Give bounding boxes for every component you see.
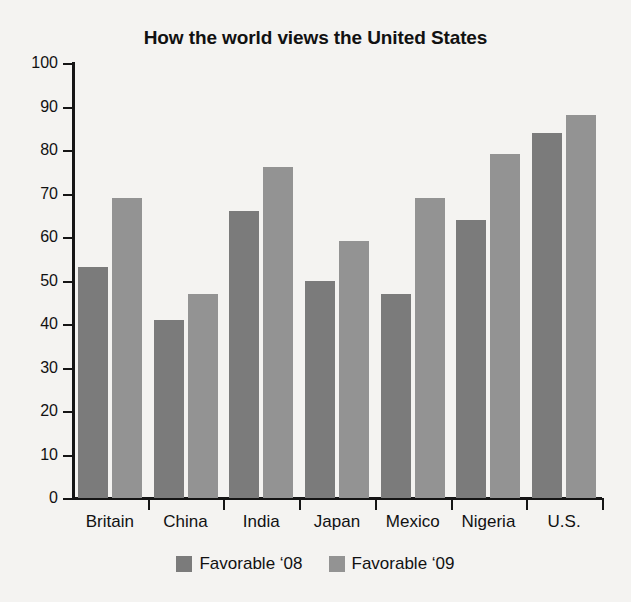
bar-nigeria-09 bbox=[490, 154, 520, 498]
y-tick-label: 0 bbox=[49, 488, 58, 507]
y-tick-label: 30 bbox=[40, 358, 58, 377]
bar-china-08 bbox=[154, 320, 184, 498]
y-tick-label: 20 bbox=[40, 401, 58, 420]
y-tick-mark bbox=[63, 498, 72, 500]
x-tick-mark bbox=[451, 498, 453, 510]
y-tick-mark bbox=[63, 368, 72, 370]
bar-mexico-08 bbox=[381, 294, 411, 498]
y-tick-label: 60 bbox=[40, 227, 58, 246]
bar-japan-08 bbox=[305, 281, 335, 499]
bar-japan-09 bbox=[339, 241, 369, 498]
bar-mexico-09 bbox=[415, 198, 445, 498]
bar-us-09 bbox=[566, 115, 596, 498]
legend-swatch-icon bbox=[329, 556, 345, 572]
x-tick-mark bbox=[526, 498, 528, 510]
x-axis-label-china: China bbox=[148, 512, 224, 532]
y-tick-mark bbox=[63, 281, 72, 283]
x-axis-label-mexico: Mexico bbox=[375, 512, 451, 532]
x-axis-label-india: India bbox=[223, 512, 299, 532]
y-tick-mark bbox=[63, 107, 72, 109]
bar-britain-08 bbox=[78, 267, 108, 498]
x-axis-label-japan: Japan bbox=[299, 512, 375, 532]
y-tick-mark bbox=[63, 63, 72, 65]
legend-label: Favorable ‘09 bbox=[352, 554, 455, 574]
y-tick-label: 50 bbox=[40, 271, 58, 290]
y-tick-mark bbox=[63, 411, 72, 413]
y-tick-mark bbox=[63, 194, 72, 196]
x-axis-label-us: U.S. bbox=[526, 512, 602, 532]
chart-legend: Favorable ‘08Favorable ‘09 bbox=[0, 554, 631, 574]
y-tick: 40 bbox=[0, 324, 72, 325]
y-tick: 10 bbox=[0, 455, 72, 456]
legend-swatch-icon bbox=[176, 556, 192, 572]
y-tick-mark bbox=[63, 324, 72, 326]
legend-entry-09[interactable]: Favorable ‘09 bbox=[329, 554, 455, 574]
chart-title: How the world views the United States bbox=[0, 27, 631, 49]
y-tick: 20 bbox=[0, 411, 72, 412]
y-tick-label: 70 bbox=[40, 184, 58, 203]
y-tick-mark bbox=[63, 237, 72, 239]
y-tick: 80 bbox=[0, 150, 72, 151]
y-tick: 70 bbox=[0, 194, 72, 195]
y-tick-mark bbox=[63, 150, 72, 152]
y-tick: 30 bbox=[0, 368, 72, 369]
y-tick: 50 bbox=[0, 281, 72, 282]
y-tick-label: 90 bbox=[40, 97, 58, 116]
bar-india-08 bbox=[229, 211, 259, 498]
legend-label: Favorable ‘08 bbox=[199, 554, 302, 574]
y-tick-mark bbox=[63, 455, 72, 457]
y-tick-label: 40 bbox=[40, 314, 58, 333]
x-tick-mark bbox=[299, 498, 301, 510]
bar-nigeria-08 bbox=[456, 220, 486, 498]
bar-india-09 bbox=[263, 167, 293, 498]
bar-us-08 bbox=[532, 133, 562, 498]
x-axis-label-britain: Britain bbox=[72, 512, 148, 532]
y-tick-label: 80 bbox=[40, 140, 58, 159]
y-tick: 90 bbox=[0, 107, 72, 108]
x-tick-mark bbox=[148, 498, 150, 510]
bar-china-09 bbox=[188, 294, 218, 498]
x-tick-mark-end bbox=[602, 498, 604, 510]
x-axis-label-nigeria: Nigeria bbox=[451, 512, 527, 532]
x-tick-mark bbox=[375, 498, 377, 510]
x-tick-mark bbox=[223, 498, 225, 510]
y-tick: 0 bbox=[0, 498, 72, 499]
bar-britain-09 bbox=[112, 198, 142, 498]
y-tick: 60 bbox=[0, 237, 72, 238]
y-tick-label: 10 bbox=[40, 445, 58, 464]
y-tick-label: 100 bbox=[31, 53, 58, 72]
plot-area bbox=[72, 63, 602, 498]
legend-entry-08[interactable]: Favorable ‘08 bbox=[176, 554, 302, 574]
y-tick: 100 bbox=[0, 63, 72, 64]
bar-chart: How the world views the United States 10… bbox=[0, 0, 631, 602]
